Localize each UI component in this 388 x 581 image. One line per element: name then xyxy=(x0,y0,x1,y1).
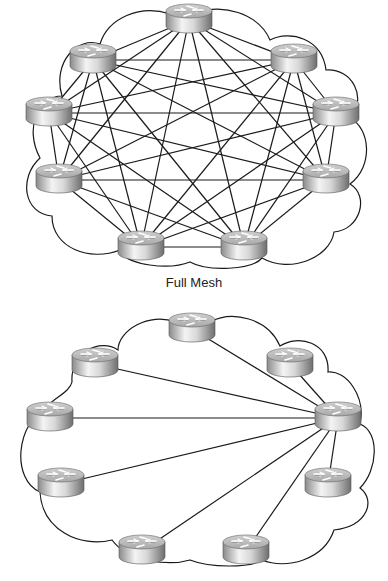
router-icon xyxy=(118,231,164,260)
router-icon xyxy=(27,402,73,431)
mesh-link xyxy=(141,20,189,247)
router-icon xyxy=(70,44,116,73)
router-icon xyxy=(169,313,215,342)
router-icon xyxy=(166,4,212,33)
mesh-link xyxy=(189,20,326,180)
router-icon xyxy=(221,231,267,260)
router-icon xyxy=(119,535,165,564)
router-icon xyxy=(72,348,118,377)
hub-link xyxy=(192,329,338,418)
router-icon xyxy=(36,164,82,193)
network-topology-canvas xyxy=(0,0,388,581)
mesh-link xyxy=(59,113,336,180)
router-icon xyxy=(26,97,72,126)
hub-link xyxy=(61,418,338,484)
router-icon xyxy=(223,535,269,564)
router-icon xyxy=(267,348,313,377)
partial-mesh-diagram xyxy=(21,313,374,566)
mesh-link xyxy=(49,113,326,180)
router-icon xyxy=(271,44,317,73)
full-mesh-diagram xyxy=(26,4,367,268)
router-icon xyxy=(305,468,351,497)
full-mesh-caption: Full Mesh xyxy=(0,275,388,290)
router-icon xyxy=(38,468,84,497)
router-icon xyxy=(315,402,361,431)
router-icon xyxy=(303,164,349,193)
router-icon xyxy=(313,97,359,126)
mesh-link xyxy=(244,60,294,247)
